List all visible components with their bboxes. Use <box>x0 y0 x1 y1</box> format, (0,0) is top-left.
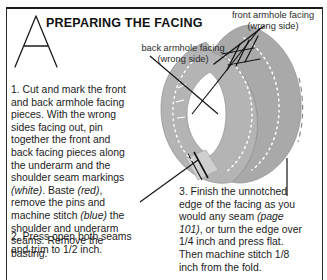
step-2-text: 2. Press open both seams and trim to 1/2… <box>11 231 133 256</box>
label-back-line1: back armhole facing <box>133 43 233 54</box>
page-left-border <box>6 7 7 280</box>
label-back-line2: (wrong side) <box>133 54 233 65</box>
step-3-text: 3. Finish the unnotched edge of the faci… <box>179 186 305 274</box>
page-top-rule <box>6 7 323 9</box>
label-front-line1: front armhole facing <box>224 10 322 21</box>
label-front-line2: (wrong side) <box>224 21 322 32</box>
instruction-page: PREPARING THE FACING <box>0 0 327 280</box>
label-back-armhole-facing: back armhole facing (wrong side) <box>133 43 233 64</box>
label-front-armhole-facing: front armhole facing (wrong side) <box>224 10 322 31</box>
